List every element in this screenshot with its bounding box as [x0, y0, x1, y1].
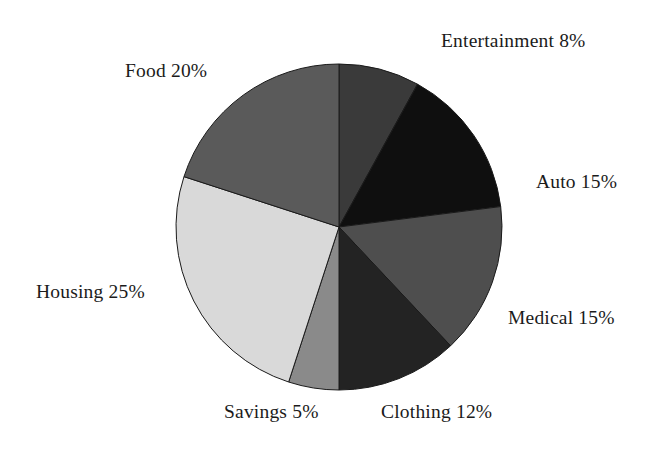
pie-slices-group [176, 64, 502, 390]
pie-label-entertainment: Entertainment 8% [441, 31, 586, 51]
pie-chart: Entertainment 8% Food 20% Auto 15% Medic… [0, 0, 660, 459]
pie-label-food: Food 20% [125, 61, 207, 81]
pie-label-medical: Medical 15% [508, 308, 615, 328]
pie-label-housing: Housing 25% [36, 282, 145, 302]
pie-label-auto: Auto 15% [536, 172, 617, 192]
pie-chart-canvas [0, 0, 660, 459]
pie-label-savings: Savings 5% [224, 402, 319, 422]
pie-label-clothing: Clothing 12% [381, 402, 492, 422]
